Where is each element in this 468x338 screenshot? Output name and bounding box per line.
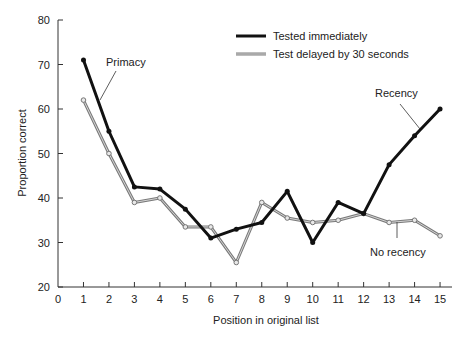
- y-tick-label: 50: [38, 148, 50, 160]
- x-tick-label: 13: [383, 293, 395, 305]
- serial-position-chart: 20304050607080 0123456789101112131415 Pr…: [0, 0, 468, 338]
- data-point: [208, 236, 213, 241]
- annotations: Primacy Recency No recency: [100, 56, 426, 258]
- data-point: [310, 240, 315, 245]
- annotation-recency-leader: [400, 104, 420, 129]
- annotation-primacy: Primacy: [106, 56, 146, 68]
- x-tick-label: 6: [208, 293, 214, 305]
- legend: Tested immediately Test delayed by 30 se…: [236, 30, 409, 60]
- data-point: [183, 225, 188, 230]
- data-point: [438, 234, 443, 239]
- data-point: [234, 260, 239, 265]
- x-tick-label: 12: [358, 293, 370, 305]
- x-tick-label: 10: [307, 293, 319, 305]
- data-point: [132, 200, 137, 205]
- data-point: [259, 220, 264, 225]
- y-tick-label: 70: [38, 59, 50, 71]
- data-point: [387, 162, 392, 167]
- series-tested-immediately: [81, 58, 443, 245]
- series-line: [83, 100, 440, 262]
- x-tick-label: 8: [259, 293, 265, 305]
- annotation-recency: Recency: [375, 87, 418, 99]
- data-point: [438, 107, 443, 112]
- data-point: [209, 225, 214, 230]
- data-point: [285, 216, 290, 221]
- y-axis-title: Proportion correct: [16, 109, 28, 196]
- data-point: [285, 189, 290, 194]
- annotation-no-recency: No recency: [370, 246, 426, 258]
- x-tick-label: 15: [434, 293, 446, 305]
- x-tick-label: 9: [284, 293, 290, 305]
- x-axis-title: Position in original list: [213, 314, 319, 326]
- annotation-primacy-leader: [100, 71, 116, 100]
- data-point: [81, 58, 86, 63]
- data-point: [336, 218, 341, 223]
- x-tick-label: 14: [408, 293, 420, 305]
- legend-label: Tested immediately: [273, 30, 368, 42]
- data-point: [107, 151, 112, 156]
- data-point: [336, 200, 341, 205]
- x-tick-label: 2: [106, 293, 112, 305]
- data-point: [361, 211, 366, 216]
- legend-item-delayed: Test delayed by 30 seconds: [236, 48, 409, 60]
- x-tick-label: 3: [131, 293, 137, 305]
- x-tick-label: 5: [182, 293, 188, 305]
- legend-item-tested-immediately: Tested immediately: [236, 30, 368, 42]
- x-tick-label: 4: [157, 293, 163, 305]
- x-tick-label: 1: [80, 293, 86, 305]
- x-tick-label: 0: [55, 293, 61, 305]
- data-point: [132, 184, 137, 189]
- y-tick-label: 30: [38, 237, 50, 249]
- data-point: [158, 196, 163, 201]
- x-tick-label: 11: [332, 293, 343, 305]
- y-tick-label: 40: [38, 192, 50, 204]
- y-ticks: 20304050607080: [38, 14, 63, 293]
- x-tick-label: 7: [233, 293, 239, 305]
- data-point: [387, 220, 392, 225]
- y-tick-label: 60: [38, 103, 50, 115]
- data-point: [234, 227, 239, 232]
- data-point: [412, 133, 417, 138]
- data-point: [157, 187, 162, 192]
- data-point: [310, 220, 315, 225]
- y-tick-label: 20: [38, 281, 50, 293]
- data-point: [183, 207, 188, 212]
- data-point: [106, 129, 111, 134]
- legend-label: Test delayed by 30 seconds: [273, 48, 409, 60]
- series-line-inner: [83, 100, 440, 262]
- data-point: [81, 98, 86, 103]
- data-point: [412, 218, 417, 223]
- y-tick-label: 80: [38, 14, 50, 26]
- series-delayed-30s: [81, 98, 442, 265]
- data-point: [259, 200, 264, 205]
- x-ticks: 0123456789101112131415: [55, 282, 446, 305]
